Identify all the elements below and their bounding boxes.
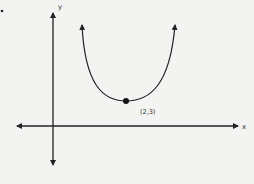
parabola-left-branch [82, 25, 126, 101]
bullet-dot [1, 10, 4, 13]
x-axis-label: x [242, 123, 246, 131]
y-axis-label: y [58, 3, 62, 11]
vertex-label: (2,3) [140, 108, 155, 116]
vertex-point [123, 98, 129, 104]
parabola-right-branch [126, 25, 175, 101]
parabola-diagram: y x (2,3) [0, 0, 254, 184]
